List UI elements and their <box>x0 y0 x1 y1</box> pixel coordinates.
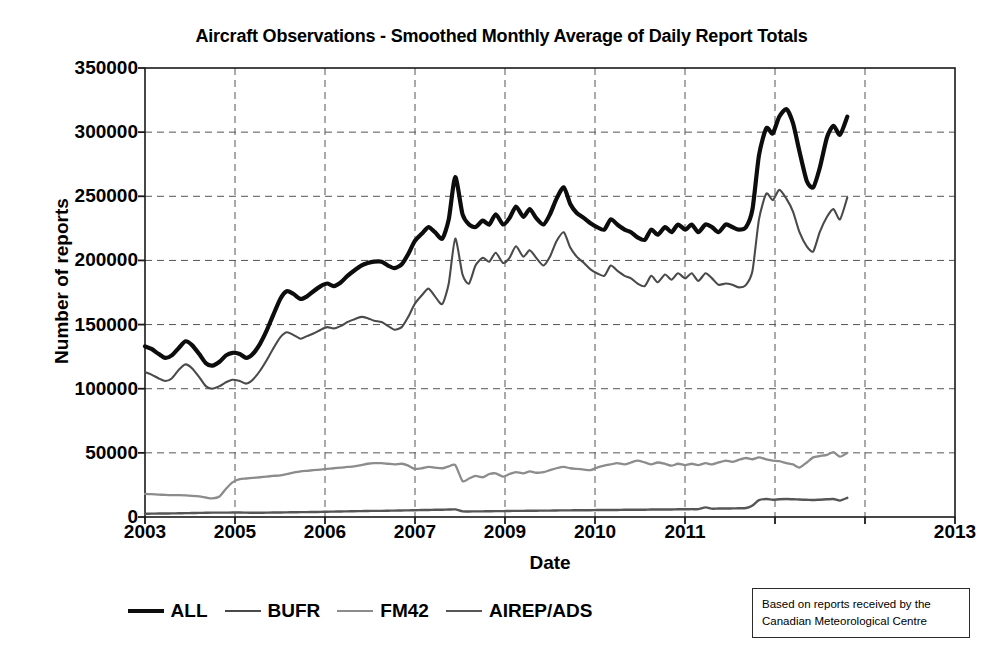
legend-label: AIREP/ADS <box>489 600 592 622</box>
series-line-airep-ads <box>145 498 847 514</box>
legend-item-bufr[interactable]: BUFR <box>225 600 321 622</box>
legend-label: ALL <box>171 600 208 622</box>
legend-label: BUFR <box>268 600 321 622</box>
chart-container: Aircraft Observations - Smoothed Monthly… <box>0 0 1003 667</box>
plot-frame <box>145 68 955 517</box>
annotation-line-2: Canadian Meteorological Centre <box>762 613 960 630</box>
annotation-box: Based on reports received by the Canadia… <box>752 588 970 638</box>
annotation-line-1: Based on reports received by the <box>762 596 960 613</box>
legend-line-icon <box>446 610 482 612</box>
legend-item-all[interactable]: ALL <box>128 600 208 622</box>
chart-legend: ALLBUFRFM42AIREP/ADS <box>0 600 720 622</box>
plot-area <box>0 0 1003 667</box>
series-line-bufr <box>145 190 847 389</box>
legend-label: FM42 <box>380 600 429 622</box>
legend-line-icon <box>337 610 373 612</box>
series-line-fm42 <box>145 452 847 498</box>
legend-item-fm42[interactable]: FM42 <box>337 600 429 622</box>
legend-item-airep-ads[interactable]: AIREP/ADS <box>446 600 592 622</box>
legend-line-icon <box>128 609 164 613</box>
legend-line-icon <box>225 610 261 612</box>
series-line-all <box>145 109 847 366</box>
